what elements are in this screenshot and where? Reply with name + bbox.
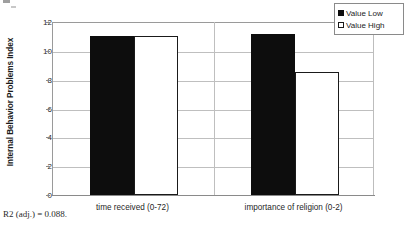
y-axis-tick-mark: [46, 80, 50, 81]
legend-item-value-low[interactable]: Value Low: [338, 7, 400, 19]
bar-value-low: [251, 34, 295, 195]
category-separator: [214, 22, 215, 195]
legend-item-value-high[interactable]: Value High: [338, 19, 400, 31]
y-axis-tick-mark: [46, 51, 50, 52]
category-label: time received (0-72): [52, 203, 213, 212]
r-squared-footnote: R2 (adj.) = 0.088.: [3, 209, 67, 219]
legend-swatch-icon-value-low: [338, 10, 344, 16]
y-axis-tick-mark: [46, 137, 50, 138]
y-axis-tick-mark: [46, 22, 50, 23]
x-axis-line: [52, 195, 375, 196]
legend-label-value-low: Value Low: [346, 9, 383, 18]
y-axis-tick-mark: [46, 195, 50, 196]
y-axis-tick-mark: [46, 166, 50, 167]
bar-value-high: [295, 72, 339, 195]
legend-swatch-icon-value-high: [338, 22, 344, 28]
bar-value-low: [90, 36, 134, 195]
category-label: importance of religion (0-2): [213, 203, 374, 212]
plot-area: [52, 22, 374, 195]
y-axis-tick-mark: [46, 109, 50, 110]
chart-figure: Internal Behavior Problems Index 1210864…: [0, 0, 407, 234]
y-axis-tick-labels: 121086420: [0, 0, 52, 234]
chart-legend[interactable]: Value Low Value High: [334, 3, 404, 35]
legend-label-value-high: Value High: [346, 21, 385, 30]
bar-value-high: [134, 36, 178, 195]
